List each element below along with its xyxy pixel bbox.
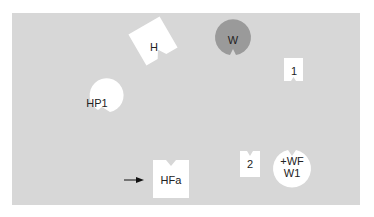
label-wf-line2: W1 (276, 167, 308, 179)
label-w: W (225, 34, 241, 46)
arrow-right-icon (124, 177, 144, 183)
label-wf-line1: +WF (276, 155, 308, 167)
label-2: 2 (242, 158, 258, 170)
diagram-shapes (0, 0, 374, 217)
label-h: H (146, 41, 162, 53)
label-hfa: HFa (155, 174, 187, 186)
label-hp1: HP1 (82, 97, 112, 109)
label-1: 1 (286, 65, 302, 77)
